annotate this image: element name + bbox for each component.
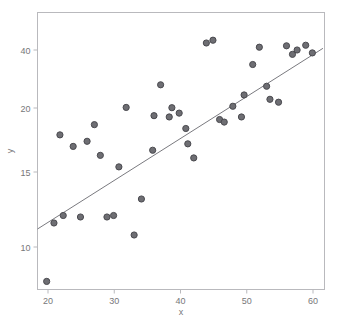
- chart-canvas: 2030405060 10152040 x y: [0, 0, 344, 325]
- x-axis-title: x: [179, 307, 184, 317]
- data-point: [183, 125, 189, 131]
- data-point: [267, 96, 273, 102]
- y-tick-label: 40: [20, 46, 30, 56]
- data-point: [203, 40, 209, 46]
- data-point: [241, 92, 247, 98]
- data-point: [176, 110, 182, 116]
- data-point: [294, 47, 300, 53]
- x-tick-label: 20: [43, 296, 53, 306]
- scatter-plot-figure: 2030405060 10152040 x y: [0, 0, 344, 325]
- data-point: [110, 212, 116, 218]
- data-point: [44, 278, 50, 284]
- data-point: [57, 132, 63, 138]
- data-point: [97, 152, 103, 158]
- data-point: [264, 83, 270, 89]
- data-point: [191, 155, 197, 161]
- data-point: [230, 103, 236, 109]
- data-point: [309, 50, 315, 56]
- data-point: [84, 138, 90, 144]
- data-point: [116, 164, 122, 170]
- data-point: [70, 143, 76, 149]
- data-point: [250, 61, 256, 67]
- data-point: [303, 42, 309, 48]
- data-point: [51, 220, 57, 226]
- data-point: [158, 82, 164, 88]
- y-tick-label: 15: [20, 168, 30, 178]
- data-point: [185, 141, 191, 147]
- data-point: [238, 114, 244, 120]
- data-point: [256, 44, 262, 50]
- data-point: [123, 104, 129, 110]
- data-point: [169, 105, 175, 111]
- data-point: [104, 214, 110, 220]
- data-point: [210, 37, 216, 43]
- x-tick-label: 40: [175, 296, 185, 306]
- data-point: [131, 232, 137, 238]
- data-point: [77, 214, 83, 220]
- figure-background: [0, 0, 344, 325]
- y-tick-label: 10: [20, 243, 30, 253]
- data-point: [283, 43, 289, 49]
- data-point: [150, 147, 156, 153]
- x-tick-label: 50: [242, 296, 252, 306]
- data-point: [221, 119, 227, 125]
- y-tick-label: 20: [20, 104, 30, 114]
- data-point: [91, 122, 97, 128]
- data-point: [275, 99, 281, 105]
- data-point: [60, 212, 66, 218]
- data-point: [138, 196, 144, 202]
- data-point: [166, 114, 172, 120]
- data-point: [151, 113, 157, 119]
- x-tick-label: 30: [109, 296, 119, 306]
- y-axis-title: y: [5, 148, 15, 153]
- x-tick-label: 60: [308, 296, 318, 306]
